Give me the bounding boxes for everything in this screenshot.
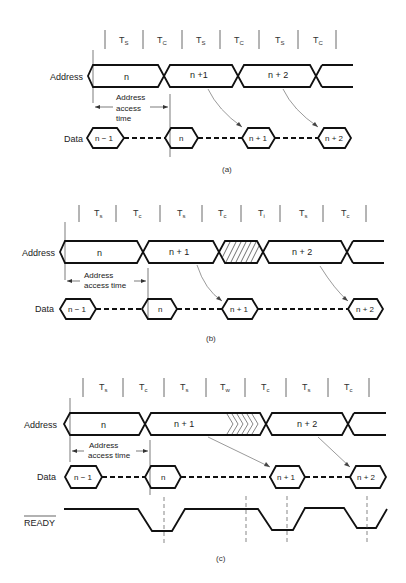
svg-text:n + 2: n + 2 [325, 134, 344, 143]
svg-text:n: n [101, 420, 106, 430]
svg-text:Ts: Ts [99, 382, 108, 393]
svg-text:time: time [116, 114, 132, 123]
svg-text:Address: Address [116, 93, 145, 102]
address-value-n2-a: n + 2 [268, 70, 288, 80]
cycle-labels-a: TS TC TS TC TS TC [119, 35, 324, 46]
svg-text:n − 1: n − 1 [68, 305, 87, 314]
panel-c: Ts Tc Ts Tw Tc Ts Tc Address n n [24, 378, 387, 563]
ready-label-c: READY [24, 516, 56, 528]
data-label-c: Data [37, 472, 56, 482]
data-bus-a [87, 128, 351, 148]
svg-text:n: n [179, 134, 183, 143]
address-label-b: Address [22, 248, 56, 258]
svg-text:TC: TC [234, 35, 245, 46]
svg-text:Ts: Ts [299, 208, 308, 219]
access-time-b: Address access time [67, 271, 146, 290]
wait-chevrons-c [227, 414, 258, 434]
address-value-n-a: n [124, 72, 129, 82]
panel-a: TS TC TS TC TS TC Address n n +1 n + 2 A… [50, 30, 353, 174]
svg-text:Ts: Ts [302, 382, 311, 393]
address-bus-b [60, 241, 384, 263]
svg-text:Ts: Ts [180, 382, 189, 393]
svg-text:access: access [116, 104, 141, 113]
caption-a: (a) [222, 165, 232, 174]
svg-text:TC: TC [313, 35, 324, 46]
access-time-c: Address access time [72, 441, 148, 460]
svg-text:Ts: Ts [94, 208, 103, 219]
data-label-b: Data [35, 304, 54, 314]
svg-text:access time: access time [84, 281, 127, 290]
idle-hatch-b [222, 242, 259, 262]
svg-text:n: n [97, 248, 102, 258]
svg-text:Tc: Tc [341, 208, 350, 219]
svg-text:n + 1: n + 1 [230, 305, 249, 314]
svg-text:TC: TC [157, 35, 168, 46]
svg-text:Tc: Tc [133, 208, 142, 219]
timing-diagram-figure: TS TC TS TC TS TC Address n n +1 n + 2 A… [0, 0, 406, 583]
ready-waveform-c [64, 508, 387, 531]
data-label-a: Data [64, 134, 83, 144]
cycle-labels-c: Ts Tc Ts Tw Tc Ts Tc [99, 382, 353, 393]
cycle-ticks-a [105, 30, 336, 49]
svg-text:Address: Address [89, 441, 118, 450]
svg-text:Ts: Ts [177, 208, 186, 219]
svg-text:Tc: Tc [261, 382, 270, 393]
svg-text:n + 1: n + 1 [174, 419, 194, 429]
svg-text:TS: TS [275, 35, 285, 46]
svg-text:n: n [161, 473, 165, 482]
access-time-a: Address access time [95, 93, 168, 123]
svg-text:Tc: Tc [139, 382, 148, 393]
address-bus-c [64, 413, 386, 435]
svg-text:n − 1: n − 1 [74, 473, 93, 482]
svg-text:TS: TS [196, 35, 206, 46]
data-bus-c [65, 466, 386, 488]
svg-text:READY: READY [24, 518, 55, 528]
address-value-n1-a: n +1 [190, 70, 208, 80]
svg-text:n + 2: n + 2 [356, 305, 375, 314]
svg-text:n + 1: n + 1 [249, 134, 268, 143]
svg-text:n + 1: n + 1 [277, 473, 296, 482]
caption-c: (c) [216, 554, 226, 563]
data-bus-b [60, 299, 383, 319]
address-label-c: Address [24, 420, 58, 430]
caption-b: (b) [206, 334, 216, 343]
panel-b: Ts Tc Ts Tc Ti Ts Tc Address [22, 205, 384, 343]
svg-text:n: n [158, 305, 162, 314]
svg-text:n − 1: n − 1 [95, 134, 114, 143]
svg-text:n + 2: n + 2 [357, 473, 376, 482]
svg-text:n + 1: n + 1 [169, 247, 189, 257]
svg-text:Tw: Tw [220, 382, 231, 393]
svg-text:TS: TS [119, 35, 129, 46]
svg-text:access time: access time [88, 451, 131, 460]
svg-text:n + 2: n + 2 [297, 419, 317, 429]
address-label-a: Address [50, 72, 84, 82]
svg-text:Address: Address [84, 271, 113, 280]
cycle-labels-b: Ts Tc Ts Tc Ti Ts Tc [94, 208, 350, 219]
svg-text:n + 2: n + 2 [292, 247, 312, 257]
svg-text:Tc: Tc [218, 208, 227, 219]
svg-text:Tc: Tc [344, 382, 353, 393]
svg-text:Ti: Ti [258, 208, 265, 219]
